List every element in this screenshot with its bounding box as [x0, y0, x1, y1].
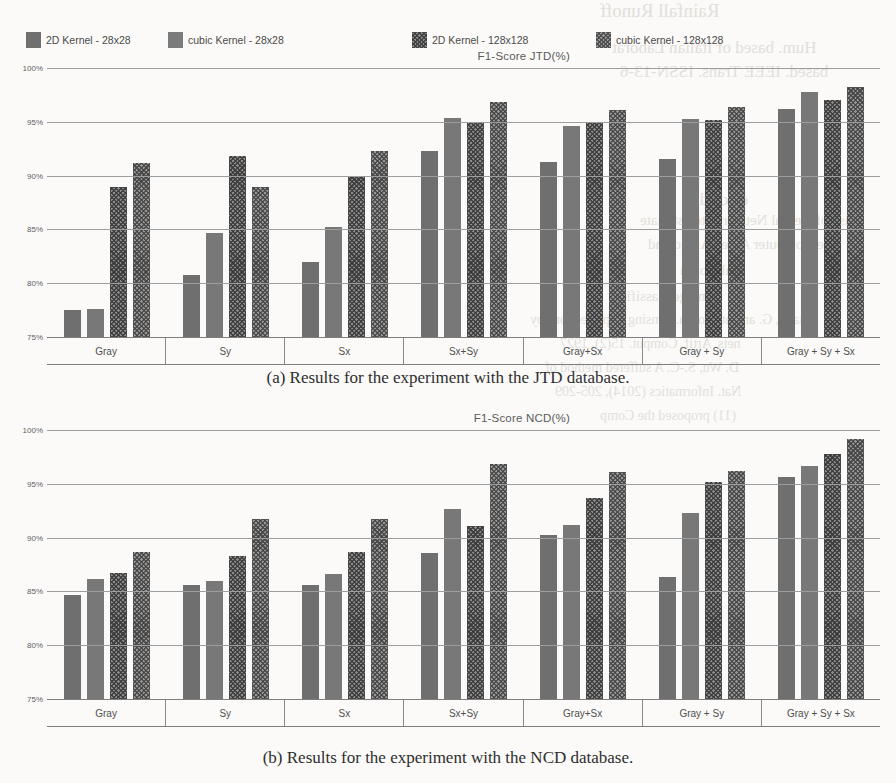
x-axis-label-jtd-6: Gray + Sy + Sx [762, 338, 880, 364]
bar-jtd-5-1 [682, 119, 699, 337]
bar-group-jtd-3 [404, 68, 523, 337]
x-axis-label-jtd-1: Sy [166, 338, 285, 364]
figure-container: Rainfall RunoffHum. based of Italian Lab… [0, 0, 896, 783]
bar-jtd-1-3 [252, 187, 269, 337]
legend-item-2: 2D Kernel - 128x128 [412, 30, 528, 50]
bar-ncd-5-2 [705, 482, 722, 699]
bar-ncd-2-3 [371, 519, 388, 699]
y-tick-label-ncd-75: 75% [27, 695, 43, 704]
bar-ncd-2-0 [302, 585, 319, 699]
y-tick-label-ncd-100: 100% [23, 426, 43, 435]
bar-ncd-3-0 [421, 553, 438, 699]
bar-ncd-3-2 [467, 526, 484, 699]
bar-ncd-2-2 [348, 552, 365, 699]
x-axis-label-jtd-5: Gray + Sy [643, 338, 762, 364]
x-axis-label-ncd-5: Gray + Sy [643, 700, 762, 726]
x-axis-label-ncd-2: Sx [285, 700, 404, 726]
bar-ncd-1-1 [206, 581, 223, 699]
legend-swatch-cubic-kernel-28-icon [168, 32, 183, 48]
bar-ncd-4-3 [609, 472, 626, 699]
legend-label-1: cubic Kernel - 28x28 [188, 34, 284, 46]
bar-group-ncd-0 [47, 430, 166, 699]
plot-area-ncd: 100%95%90%85%80%75% [47, 430, 880, 699]
y-tick-label-jtd-80: 80% [27, 279, 43, 288]
bar-ncd-0-3 [133, 552, 150, 699]
bar-jtd-4-3 [609, 110, 626, 337]
bar-ncd-0-1 [87, 579, 104, 700]
legend-label-3: cubic Kernel - 128x128 [616, 34, 723, 46]
bar-group-jtd-6 [761, 68, 880, 337]
legend-swatch-2d-kernel-28-icon [26, 32, 41, 48]
gridline-jtd-90 [47, 176, 880, 177]
legend-item-0: 2D Kernel - 28x28 [26, 30, 131, 50]
chart-legend: 2D Kernel - 28x28 cubic Kernel - 28x28 2… [26, 30, 870, 52]
bar-ncd-5-0 [659, 577, 676, 699]
x-axis-ncd: GraySySxSx+SyGray+SxGray + SyGray + Sy +… [47, 699, 880, 727]
bar-ncd-6-0 [778, 477, 795, 699]
legend-label-0: 2D Kernel - 28x28 [46, 34, 131, 46]
bar-ncd-1-2 [229, 556, 246, 699]
bar-group-jtd-0 [47, 68, 166, 337]
caption-b: (b) Results for the experiment with the … [0, 748, 896, 768]
x-axis-label-jtd-3: Sx+Sy [404, 338, 523, 364]
bar-ncd-2-1 [325, 574, 342, 699]
bar-jtd-0-0 [64, 310, 81, 337]
y-tick-label-ncd-95: 95% [27, 479, 43, 488]
gridline-ncd-95 [47, 484, 880, 485]
bar-ncd-1-0 [183, 585, 200, 699]
x-axis-label-jtd-2: Sx [285, 338, 404, 364]
bar-group-jtd-2 [285, 68, 404, 337]
chart-title-jtd: F1-Score JTD(%) [478, 50, 570, 62]
bar-group-ncd-1 [166, 430, 285, 699]
bar-series-jtd [47, 68, 880, 337]
x-axis-label-ncd-0: Gray [47, 700, 166, 726]
bar-jtd-6-1 [801, 92, 818, 337]
bar-series-ncd [47, 430, 880, 699]
bar-jtd-6-3 [847, 87, 864, 337]
gridline-jtd-80 [47, 283, 880, 284]
bar-ncd-5-3 [728, 471, 745, 699]
caption-a: (a) Results for the experiment with the … [0, 368, 896, 388]
bar-ncd-3-3 [490, 464, 507, 699]
x-axis-label-ncd-3: Sx+Sy [404, 700, 523, 726]
bar-group-ncd-5 [642, 430, 761, 699]
x-axis-label-ncd-6: Gray + Sy + Sx [762, 700, 880, 726]
bar-ncd-6-3 [847, 439, 864, 699]
bar-jtd-4-0 [540, 162, 557, 337]
bar-jtd-5-0 [659, 159, 676, 337]
bar-jtd-6-2 [824, 100, 841, 337]
bar-jtd-0-2 [110, 187, 127, 337]
bar-ncd-6-2 [824, 454, 841, 699]
legend-swatch-2d-kernel-128-icon [412, 32, 427, 48]
x-axis-label-jtd-4: Gray+Sx [524, 338, 643, 364]
gridline-jtd-85 [47, 229, 880, 230]
legend-item-1: cubic Kernel - 28x28 [168, 30, 284, 50]
gridline-jtd-95 [47, 122, 880, 123]
y-tick-label-ncd-90: 90% [27, 533, 43, 542]
bar-jtd-2-3 [371, 151, 388, 337]
legend-swatch-cubic-kernel-128-icon [596, 32, 611, 48]
bar-group-ncd-2 [285, 430, 404, 699]
bar-group-jtd-5 [642, 68, 761, 337]
bar-group-jtd-4 [523, 68, 642, 337]
bar-ncd-4-2 [586, 498, 603, 699]
y-tick-label-ncd-80: 80% [27, 641, 43, 650]
bar-jtd-0-1 [87, 309, 104, 337]
y-tick-label-jtd-100: 100% [23, 64, 43, 73]
bar-group-ncd-4 [523, 430, 642, 699]
panel-jtd: F1-Score JTD(%) 100%95%90%85%80%75% Gray… [0, 50, 896, 366]
bar-jtd-1-1 [206, 233, 223, 337]
bar-jtd-2-0 [302, 262, 319, 337]
panel-ncd: F1-Score NCD(%) 100%95%90%85%80%75% Gray… [0, 412, 896, 728]
bar-ncd-0-0 [64, 595, 81, 699]
bar-ncd-6-1 [801, 466, 818, 699]
bar-group-ncd-6 [761, 430, 880, 699]
bar-jtd-1-2 [229, 156, 246, 337]
bar-jtd-0-3 [133, 163, 150, 337]
bar-ncd-4-1 [563, 525, 580, 699]
x-axis-label-jtd-0: Gray [47, 338, 166, 364]
y-tick-label-jtd-85: 85% [27, 225, 43, 234]
x-axis-label-ncd-1: Sy [166, 700, 285, 726]
bar-group-ncd-3 [404, 430, 523, 699]
y-tick-label-jtd-90: 90% [27, 171, 43, 180]
